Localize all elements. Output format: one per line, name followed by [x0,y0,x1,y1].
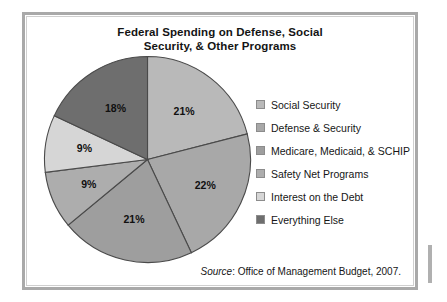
pie-slice-value-label: 18% [105,102,127,114]
chart-legend: Social SecurityDefense & SecurityMedicar… [256,93,436,231]
legend-item[interactable]: Safety Net Programs [256,162,436,185]
legend-item[interactable]: Defense & Security [256,116,436,139]
legend-swatch-icon [256,123,265,132]
pie-chart-svg: 21%22%21%9%9%18% [40,52,255,267]
pie-slice-value-label: 21% [124,213,146,225]
legend-item-label: Social Security [271,99,340,111]
legend-swatch-icon [256,146,265,155]
source-label: Source [200,266,232,277]
pie-slice-value-label: 9% [77,142,93,154]
legend-swatch-icon [256,169,265,178]
legend-item[interactable]: Interest on the Debt [256,185,436,208]
pie-slice-value-label: 22% [195,179,217,191]
legend-item[interactable]: Medicare, Medicaid, & SCHIP [256,139,436,162]
source-text: : Office of Management Budget, 2007. [232,266,401,277]
legend-item[interactable]: Everything Else [256,208,436,231]
chart-title-line-1: Federal Spending on Defense, Social [25,25,415,39]
legend-swatch-icon [256,192,265,201]
source-note: Source: Office of Management Budget, 200… [200,266,401,277]
figure-frame: Federal Spending on Defense, Social Secu… [22,12,418,290]
pie-slice-group [44,56,250,262]
legend-item-label: Interest on the Debt [271,191,363,203]
pie-slice-value-label: 9% [81,178,97,190]
pie-chart: 21%22%21%9%9%18% [40,52,255,267]
legend-item-label: Medicare, Medicaid, & SCHIP [271,145,410,157]
scan-edge-artifact [428,245,432,283]
legend-swatch-icon [256,215,265,224]
legend-swatch-icon [256,100,265,109]
legend-item[interactable]: Social Security [256,93,436,116]
legend-item-label: Safety Net Programs [271,168,368,180]
chart-title-line-2: Security, & Other Programs [25,39,415,53]
chart-title: Federal Spending on Defense, Social Secu… [25,25,415,53]
legend-item-label: Defense & Security [271,122,361,134]
pie-slice-value-label: 21% [174,105,196,117]
legend-item-label: Everything Else [271,214,344,226]
